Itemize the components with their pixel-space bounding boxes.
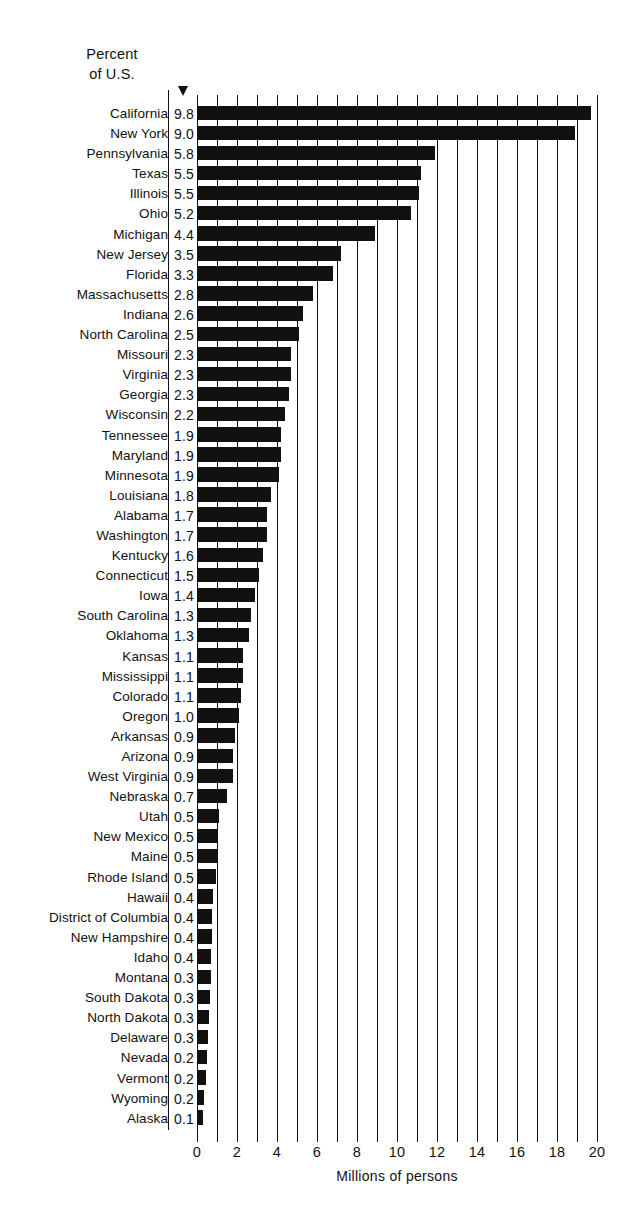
population-bar <box>197 909 212 924</box>
x-axis-tick-label: 2 <box>217 1144 257 1160</box>
state-name-label: Oregon <box>122 709 168 725</box>
population-bar-chart: Percent of U.S. California9.8New York9.0… <box>0 0 625 1210</box>
chart-row: Vermont0.2 <box>0 1069 625 1089</box>
x-axis-tick <box>237 1131 238 1142</box>
population-bar <box>197 246 341 261</box>
chart-row: Georgia2.3 <box>0 385 625 405</box>
state-name-label: Montana <box>115 970 168 986</box>
state-name-label: Michigan <box>113 227 168 243</box>
chart-row: South Carolina1.3 <box>0 606 625 626</box>
chart-row: North Dakota0.3 <box>0 1008 625 1028</box>
state-name-label: Wisconsin <box>106 407 168 423</box>
chart-row: District of Columbia0.4 <box>0 908 625 928</box>
population-bar <box>197 1050 207 1065</box>
population-bar <box>197 588 255 603</box>
state-name-label: Nebraska <box>109 789 168 805</box>
state-name-label: South Carolina <box>77 608 168 624</box>
chart-row: Connecticut1.5 <box>0 566 625 586</box>
population-bar <box>197 427 281 442</box>
state-name-label: Connecticut <box>96 568 168 584</box>
percent-column-pointer-icon <box>178 86 188 96</box>
state-name-label: Tennessee <box>102 428 168 444</box>
population-bar <box>197 206 411 221</box>
chart-row: Kansas1.1 <box>0 647 625 667</box>
state-name-label: Oklahoma <box>106 628 168 644</box>
chart-row: New Jersey3.5 <box>0 245 625 265</box>
state-name-label: Nevada <box>121 1050 168 1066</box>
x-axis-ticks <box>197 1131 598 1142</box>
chart-row: Oregon1.0 <box>0 707 625 727</box>
chart-row: Delaware0.3 <box>0 1028 625 1048</box>
chart-row: New York9.0 <box>0 124 625 144</box>
state-name-label: Missouri <box>117 347 168 363</box>
population-bar <box>197 889 213 904</box>
percent-column-header-line1: Percent <box>0 46 224 62</box>
population-bar <box>197 487 271 502</box>
state-name-label: Ohio <box>139 206 168 222</box>
chart-row: Maine0.5 <box>0 847 625 867</box>
chart-row: North Carolina2.5 <box>0 325 625 345</box>
population-bar <box>197 990 210 1005</box>
chart-row: Mississippi1.1 <box>0 667 625 687</box>
x-axis-tick <box>497 1131 498 1142</box>
state-name-label: Pennsylvania <box>86 146 168 162</box>
chart-row: Arizona0.9 <box>0 747 625 767</box>
x-axis-tick <box>197 1131 198 1142</box>
x-axis-tick-label: 18 <box>537 1144 577 1160</box>
x-axis-tick <box>477 1131 478 1142</box>
state-name-label: Idaho <box>134 950 168 966</box>
chart-row: Nevada0.2 <box>0 1048 625 1068</box>
x-axis-tick <box>317 1131 318 1142</box>
state-name-label: Kentucky <box>112 548 168 564</box>
x-axis-tick <box>437 1131 438 1142</box>
chart-row: Maryland1.9 <box>0 446 625 466</box>
x-axis-tick <box>417 1131 418 1142</box>
population-bar <box>197 166 421 181</box>
population-bar <box>197 949 211 964</box>
state-name-label: Alabama <box>114 508 168 524</box>
chart-row: Ohio5.2 <box>0 204 625 224</box>
chart-row: Massachusetts2.8 <box>0 285 625 305</box>
x-axis-tick <box>557 1131 558 1142</box>
state-name-label: Colorado <box>112 689 168 705</box>
x-axis-tick <box>217 1131 218 1142</box>
chart-row: Alabama1.7 <box>0 506 625 526</box>
population-bar <box>197 648 243 663</box>
state-name-label: Florida <box>126 267 168 283</box>
chart-row: Nebraska0.7 <box>0 787 625 807</box>
population-bar <box>197 1070 206 1085</box>
chart-row: Utah0.5 <box>0 807 625 827</box>
chart-row: Kentucky1.6 <box>0 546 625 566</box>
population-bar <box>197 306 303 321</box>
state-name-label: Indiana <box>123 307 168 323</box>
x-axis-tick <box>377 1131 378 1142</box>
population-bar <box>197 527 267 542</box>
chart-row: Minnesota1.9 <box>0 466 625 486</box>
x-axis-tick <box>397 1131 398 1142</box>
state-name-label: Maine <box>131 849 168 865</box>
chart-row: Wisconsin2.2 <box>0 405 625 425</box>
x-axis-tick <box>297 1131 298 1142</box>
x-axis-tick-label: 0 <box>177 1144 217 1160</box>
population-bar <box>197 1110 203 1125</box>
chart-row: West Virginia0.9 <box>0 767 625 787</box>
chart-row: Indiana2.6 <box>0 305 625 325</box>
state-name-label: West Virginia <box>88 769 168 785</box>
chart-row: Oklahoma1.3 <box>0 626 625 646</box>
population-bar <box>197 809 219 824</box>
chart-row: Missouri2.3 <box>0 345 625 365</box>
population-bar <box>197 708 239 723</box>
x-axis-title: Millions of persons <box>197 1168 597 1184</box>
state-name-label: Wyoming <box>111 1091 168 1107</box>
chart-row: Hawaii0.4 <box>0 888 625 908</box>
population-bar <box>197 628 249 643</box>
population-bar <box>197 668 243 683</box>
population-bar <box>197 728 235 743</box>
state-name-label: Alaska <box>127 1111 168 1127</box>
x-axis-tick <box>457 1131 458 1142</box>
x-axis-tick-label: 6 <box>297 1144 337 1160</box>
x-axis-tick-label: 20 <box>577 1144 617 1160</box>
state-name-label: New Hampshire <box>71 930 168 946</box>
population-bar <box>197 387 289 402</box>
population-bar <box>197 769 233 784</box>
